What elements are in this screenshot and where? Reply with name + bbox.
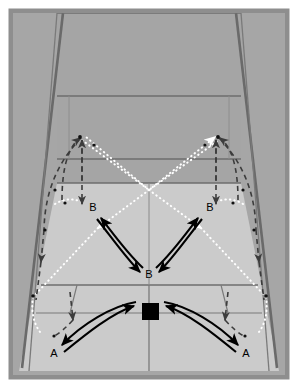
ball-dot-2 bbox=[92, 143, 95, 146]
label-b-right: B bbox=[206, 201, 213, 213]
ball-dot-7 bbox=[63, 201, 66, 204]
label-a-right: A bbox=[242, 347, 250, 359]
ball-dot-14 bbox=[243, 334, 246, 337]
far-half-surface bbox=[57, 13, 241, 183]
ball-dot-4 bbox=[203, 143, 206, 146]
ball-dot-1 bbox=[78, 135, 82, 139]
ball-dot-12 bbox=[264, 294, 268, 298]
ball-dot-6 bbox=[241, 188, 244, 191]
label-b-center: B bbox=[145, 268, 152, 280]
ball-dot-13 bbox=[52, 334, 55, 337]
diagram-root: B B B A A bbox=[0, 0, 298, 388]
ball-dot-5 bbox=[53, 188, 56, 191]
ball-dot-10 bbox=[252, 228, 255, 231]
ball-dot-3 bbox=[216, 135, 220, 139]
ball-dot-11 bbox=[31, 294, 35, 298]
label-a-left: A bbox=[50, 347, 58, 359]
ball-dot-8 bbox=[231, 201, 234, 204]
player-start-marker bbox=[142, 303, 159, 320]
label-b-left: B bbox=[89, 201, 96, 213]
tennis-court-diagram: B B B A A bbox=[0, 0, 298, 388]
ball-dot-9 bbox=[43, 228, 46, 231]
court-scene: B B B A A bbox=[10, 10, 288, 378]
